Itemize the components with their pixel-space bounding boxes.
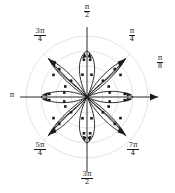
theta-label-three-pi-over-4: 3π 4 bbox=[30, 28, 50, 44]
marker-point bbox=[113, 123, 116, 126]
marker-point bbox=[70, 79, 73, 82]
marker-point bbox=[123, 93, 126, 96]
theta-label-text: π bbox=[10, 92, 15, 99]
marker-point bbox=[107, 85, 110, 88]
marker-point bbox=[70, 111, 73, 114]
marker-point bbox=[90, 73, 93, 76]
marker-point bbox=[58, 68, 61, 71]
theta-label-numerator: π bbox=[84, 4, 91, 11]
theta-label-pi-over-2: π 2 bbox=[78, 4, 96, 20]
marker-point bbox=[113, 68, 116, 71]
marker-point bbox=[119, 74, 122, 77]
theta-label-denominator: 4 bbox=[127, 149, 138, 157]
theta-label-numerator: π bbox=[157, 55, 164, 62]
marker-point bbox=[64, 85, 67, 88]
marker-point bbox=[108, 100, 111, 103]
theta-label-denominator: 4 bbox=[129, 35, 136, 43]
marker-point bbox=[52, 117, 55, 120]
marker-point bbox=[63, 100, 66, 103]
theta-label-seven-pi-over-4: 7π 4 bbox=[123, 142, 143, 158]
marker-point bbox=[48, 99, 51, 102]
theta-label-pi-over-8: π 8 bbox=[152, 55, 168, 71]
horizontal-axis-arrowhead-icon bbox=[150, 93, 158, 100]
polar-plot-canvas bbox=[0, 0, 175, 193]
marker-point bbox=[89, 58, 92, 61]
theta-label-pi-over-4: π 4 bbox=[123, 28, 141, 44]
marker-point bbox=[81, 117, 84, 120]
theta-label-denominator: 4 bbox=[34, 149, 45, 157]
marker-point bbox=[52, 74, 55, 77]
marker-point bbox=[90, 117, 93, 120]
marker-point bbox=[107, 105, 110, 108]
marker-point bbox=[119, 117, 122, 120]
marker-point bbox=[108, 91, 111, 94]
marker-point bbox=[123, 99, 126, 102]
marker-point bbox=[58, 123, 61, 126]
marker-point bbox=[48, 93, 51, 96]
marker-point bbox=[64, 105, 67, 108]
marker-point bbox=[83, 58, 86, 61]
theta-label-three-pi-over-2: 3π 2 bbox=[77, 171, 97, 187]
theta-label-numerator: 7π bbox=[127, 142, 138, 149]
theta-label-numerator: 3π bbox=[81, 171, 92, 178]
marker-point bbox=[89, 132, 92, 135]
theta-label-denominator: 2 bbox=[84, 11, 91, 19]
theta-label-denominator: 2 bbox=[81, 178, 92, 186]
marker-point bbox=[81, 73, 84, 76]
polar-plot-figure: π 2 π 4 π 8 3π 4 π 5π 4 3π 2 bbox=[0, 0, 175, 193]
theta-label-denominator: 4 bbox=[34, 35, 45, 43]
marker-point bbox=[102, 79, 105, 82]
marker-point bbox=[102, 111, 105, 114]
theta-label-numerator: 5π bbox=[34, 142, 45, 149]
theta-label-numerator: 3π bbox=[34, 28, 45, 35]
theta-label-numerator: π bbox=[129, 28, 136, 35]
theta-label-denominator: 8 bbox=[157, 62, 164, 70]
theta-label-pi: π bbox=[6, 92, 18, 99]
marker-point bbox=[63, 91, 66, 94]
theta-label-five-pi-over-4: 5π 4 bbox=[30, 142, 50, 158]
marker-point bbox=[83, 132, 86, 135]
